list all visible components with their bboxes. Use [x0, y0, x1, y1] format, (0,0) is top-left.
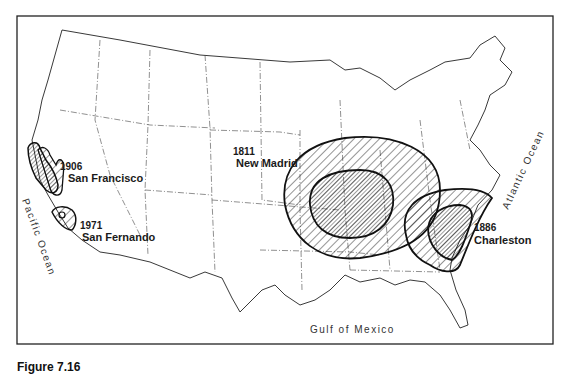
new-madrid-inner-zone	[310, 170, 393, 238]
label-city-san-francisco: San Francisco	[68, 172, 143, 184]
label-gulf-of-mexico: Gulf of Mexico	[310, 324, 395, 335]
label-year-new-madrid: 1811	[233, 146, 255, 157]
label-year-san-fernando: 1971	[80, 220, 103, 231]
label-city-san-fernando: San Fernando	[82, 231, 156, 243]
label-city-charleston: Charleston	[474, 234, 532, 246]
label-city-new-madrid: New Madrid	[236, 157, 298, 169]
label-year-charleston: 1886	[474, 222, 497, 233]
label-year-san-francisco: 1906	[60, 161, 83, 172]
figure-caption: Figure 7.16	[17, 360, 80, 374]
